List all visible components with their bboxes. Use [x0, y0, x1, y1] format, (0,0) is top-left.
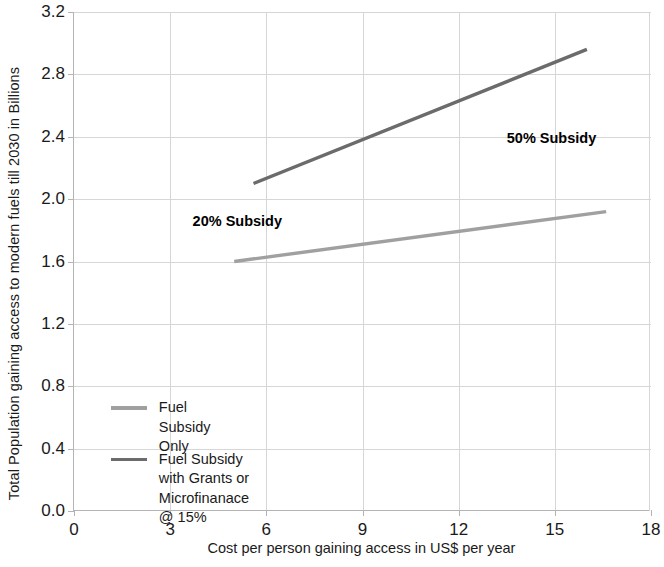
y-tick-mark [68, 324, 74, 325]
y-axis-title: Total Population gaining access to moder… [0, 0, 28, 567]
y-tick-mark [68, 449, 74, 450]
y-tick-label: 1.2 [41, 314, 65, 334]
legend-label: Fuel Subsidy with Grants or Microfinanac… [159, 450, 249, 528]
x-tick-label: 18 [642, 520, 661, 540]
x-tick-mark [651, 510, 652, 516]
x-tick-label: 0 [69, 520, 78, 540]
legend-entry-1[interactable]: Fuel Subsidy with Grants or Microfinanac… [111, 450, 249, 528]
y-tick-label: 0.8 [41, 376, 65, 396]
y-tick-label: 2.4 [41, 127, 65, 147]
x-tick-label: 15 [545, 520, 564, 540]
x-tick-mark [266, 510, 267, 516]
y-tick-mark [68, 262, 74, 263]
y-tick-label: 0.4 [41, 439, 65, 459]
y-tick-label: 2.8 [41, 64, 65, 84]
annotation-label-1: 50% Subsidy [507, 130, 596, 146]
y-tick-label: 0.0 [41, 501, 65, 521]
gridline-vertical [363, 12, 364, 511]
gridline-vertical [266, 12, 267, 511]
x-tick-label: 12 [449, 520, 468, 540]
legend-label: Fuel Subsidy Only [159, 398, 211, 457]
data-line-series-0 [234, 212, 606, 262]
plot-area: 0.00.40.81.21.62.02.42.83.2 0369121518 2… [73, 12, 650, 511]
chart-figure: Total Population gaining access to moder… [0, 0, 664, 567]
x-tick-label: 6 [262, 520, 271, 540]
x-axis-title: Cost per person gaining access in US$ pe… [73, 540, 650, 556]
data-line-series-1 [254, 49, 587, 183]
legend-swatch-icon [111, 406, 147, 410]
x-tick-mark [555, 510, 556, 516]
y-tick-mark [68, 199, 74, 200]
legend-swatch-icon [111, 458, 147, 462]
x-tick-mark [363, 510, 364, 516]
gridline-vertical [459, 12, 460, 511]
y-tick-mark [68, 74, 74, 75]
y-tick-label: 3.2 [41, 2, 65, 22]
annotation-label-0: 20% Subsidy [193, 213, 282, 229]
y-tick-mark [68, 137, 74, 138]
y-tick-mark [68, 386, 74, 387]
y-tick-label: 2.0 [41, 189, 65, 209]
x-tick-label: 9 [358, 520, 367, 540]
x-tick-mark [459, 510, 460, 516]
gridline-vertical [555, 12, 556, 511]
y-tick-label: 1.6 [41, 252, 65, 272]
y-tick-mark [68, 12, 74, 13]
legend-entry-0[interactable]: Fuel Subsidy Only [111, 398, 211, 457]
x-tick-mark [74, 510, 75, 516]
